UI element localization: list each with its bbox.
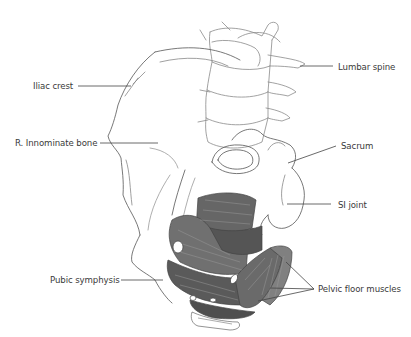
sacrum-leader: [288, 146, 336, 163]
label-pelvic-floor-muscles: Pelvic floor muscles: [318, 284, 401, 294]
pelvic-floor-muscles: [167, 193, 292, 330]
label-si-joint: SI joint: [338, 200, 367, 210]
label-iliac-crest: Iliac crest: [33, 81, 73, 91]
label-sacrum: Sacrum: [341, 141, 373, 151]
label-innominate-bone: R. Innominate bone: [15, 138, 97, 148]
pelvis-diagram: Iliac crest R. Innominate bone Lumbar sp…: [0, 0, 411, 337]
pelvic-floor-leader-1: [286, 262, 314, 289]
label-pubic-symphysis: Pubic symphysis: [50, 275, 120, 285]
label-lumbar-spine: Lumbar spine: [338, 62, 395, 72]
